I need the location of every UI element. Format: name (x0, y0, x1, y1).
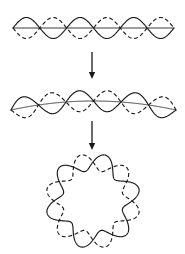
arrow-one-head (89, 72, 95, 79)
arrow-down-two (89, 121, 95, 150)
solid-wave-ring (47, 155, 139, 247)
panel-straight-wave (13, 18, 174, 39)
solid-wave-bent (11, 91, 176, 118)
wave-transformation-diagram (0, 0, 185, 254)
arrow-down-one (89, 52, 95, 79)
figure-container (0, 0, 185, 254)
arrow-two-head (89, 143, 95, 150)
dashed-wave-bent (11, 91, 176, 118)
panel-ring-wave (47, 155, 139, 247)
panel-bent-wave (11, 91, 176, 118)
dashed-wave-ring (47, 155, 139, 247)
